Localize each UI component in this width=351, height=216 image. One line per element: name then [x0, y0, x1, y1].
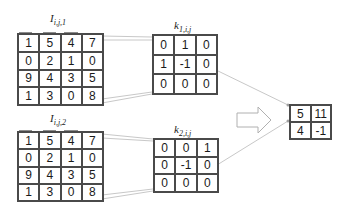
- matrix-cell: 3: [61, 70, 82, 88]
- matrix-cell: 2: [39, 52, 60, 70]
- matrix-cell: 4: [39, 167, 60, 184]
- input2-label: Ii,j,2: [50, 112, 66, 127]
- matrix-cell: 0: [196, 55, 217, 75]
- matrix-cell: 0: [154, 139, 175, 157]
- matrix-cell: 0: [82, 52, 103, 70]
- matrix-cell: 0: [61, 87, 82, 105]
- input1-matrix: 1 5 4 7 0 2 1 0 9 4 3 5 1 3 0 8: [17, 33, 104, 106]
- matrix-cell: 1: [61, 52, 82, 70]
- matrix-cell: 3: [61, 167, 82, 184]
- kernel2-label: k2,i,j: [174, 123, 191, 138]
- matrix-cell: 0: [154, 157, 175, 175]
- kernel1-label: k1,i,j: [174, 19, 191, 34]
- matrix-cell: 0: [197, 174, 218, 192]
- matrix-cell: 1: [18, 34, 39, 52]
- matrix-cell: 8: [82, 87, 103, 105]
- matrix-cell: 9: [18, 70, 39, 88]
- matrix-cell: 5: [39, 34, 60, 52]
- matrix-cell: 1: [197, 139, 218, 157]
- matrix-cell: 5: [39, 132, 60, 149]
- matrix-cell: 7: [82, 34, 103, 52]
- matrix-cell: 4: [39, 70, 60, 88]
- matrix-cell: 2: [39, 149, 60, 166]
- matrix-cell: 0: [175, 139, 196, 157]
- matrix-cell: -1: [174, 55, 195, 75]
- matrix-cell: 5: [290, 105, 311, 122]
- input1-label: Ii,j,1: [50, 12, 66, 27]
- matrix-cell: -1: [311, 122, 332, 139]
- input2-matrix: 1 5 4 7 0 2 1 0 9 4 3 5 1 3 0 8: [17, 131, 104, 202]
- matrix-cell: 1: [153, 55, 174, 75]
- matrix-cell: 4: [290, 122, 311, 139]
- kernel2-matrix: 0 0 1 0 -1 0 0 0 0: [153, 138, 219, 193]
- matrix-cell: 7: [82, 132, 103, 149]
- matrix-cell: 1: [61, 149, 82, 166]
- matrix-cell: 0: [18, 52, 39, 70]
- matrix-cell: 0: [196, 35, 217, 55]
- matrix-cell: 3: [39, 87, 60, 105]
- matrix-cell: 1: [18, 87, 39, 105]
- matrix-cell: 0: [174, 74, 195, 94]
- matrix-cell: 9: [18, 167, 39, 184]
- matrix-cell: 0: [154, 174, 175, 192]
- result-arrow-icon: [237, 107, 271, 133]
- matrix-cell: 1: [18, 184, 39, 201]
- matrix-cell: 5: [82, 167, 103, 184]
- matrix-cell: 0: [82, 149, 103, 166]
- matrix-cell: 4: [61, 34, 82, 52]
- matrix-cell: 0: [197, 157, 218, 175]
- matrix-cell: 0: [153, 35, 174, 55]
- matrix-cell: 0: [153, 74, 174, 94]
- matrix-cell: 3: [39, 184, 60, 201]
- matrix-cell: 0: [175, 174, 196, 192]
- kernel1-matrix: 0 1 0 1 -1 0 0 0 0: [152, 34, 218, 95]
- matrix-cell: 0: [18, 149, 39, 166]
- matrix-cell: 1: [174, 35, 195, 55]
- matrix-cell: -1: [175, 157, 196, 175]
- matrix-cell: 8: [82, 184, 103, 201]
- output-matrix: 5 11 4 -1: [289, 104, 332, 140]
- matrix-cell: 0: [196, 74, 217, 94]
- matrix-cell: 11: [311, 105, 332, 122]
- matrix-cell: 0: [61, 184, 82, 201]
- matrix-cell: 5: [82, 70, 103, 88]
- matrix-cell: 1: [18, 132, 39, 149]
- matrix-cell: 4: [61, 132, 82, 149]
